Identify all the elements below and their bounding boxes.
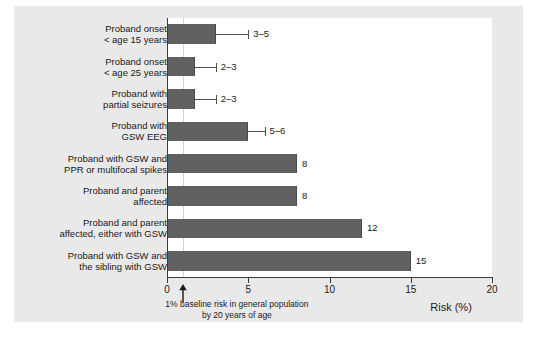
- bar[interactable]: [167, 24, 216, 44]
- annotation-line-1: 1% baseline risk in general population: [165, 299, 308, 310]
- category-label-line-2: GSW EEG: [14, 131, 167, 142]
- x-tick-label: 10: [324, 285, 335, 295]
- x-axis-title: Risk (%): [430, 302, 472, 313]
- bar-row: 5–6: [167, 122, 492, 142]
- category-label-line-1: Proband and parent: [14, 217, 167, 228]
- category-label-line-1: Proband with: [14, 88, 167, 99]
- category-label: Proband with GSW andthe sibling with GSW: [14, 250, 172, 272]
- category-label-line-2: affected, either with GSW: [14, 228, 167, 239]
- bar[interactable]: [167, 154, 297, 174]
- category-label-line-2: partial seizures: [14, 99, 167, 110]
- bar-row: 8: [167, 186, 492, 206]
- category-label-line-2: affected: [14, 196, 167, 207]
- error-bar-whisker: [195, 99, 216, 100]
- x-tick-mark: [167, 278, 168, 283]
- bar-value-label: 3–5: [253, 29, 269, 39]
- bar-value-label: 8: [302, 159, 307, 169]
- x-tick-mark: [330, 278, 331, 283]
- plot-area: 3–52–32–35–6881215: [167, 18, 492, 277]
- category-label-line-1: Proband with GSW and: [14, 153, 167, 164]
- error-bar-cap: [248, 30, 249, 39]
- bar[interactable]: [167, 186, 297, 206]
- category-label: Proband and parentaffected: [14, 185, 172, 207]
- category-label-line-2: < age 15 years: [14, 34, 167, 45]
- error-bar-whisker: [248, 131, 264, 132]
- category-label-line-2: the sibling with GSW: [14, 261, 167, 272]
- x-tick-label: 0: [164, 285, 170, 295]
- error-bar-cap: [265, 127, 266, 136]
- x-tick-label: 20: [486, 285, 497, 295]
- bar-value-label: 15: [416, 256, 427, 266]
- figure-panel: 3–52–32–35–6881215 Proband onset< age 15…: [14, 6, 523, 322]
- bar-value-label: 8: [302, 191, 307, 201]
- bar-row: 3–5: [167, 24, 492, 44]
- x-tick-mark: [492, 278, 493, 283]
- error-bar-whisker: [216, 34, 249, 35]
- bar[interactable]: [167, 122, 248, 142]
- x-tick-mark: [248, 278, 249, 283]
- annotation-line-2: by 20 years of age: [165, 310, 308, 321]
- bar-value-label: 12: [367, 224, 378, 234]
- x-tick-label: 15: [405, 285, 416, 295]
- x-tick-mark: [411, 278, 412, 283]
- bar-value-label: 2–3: [221, 62, 237, 72]
- category-label-line-1: Proband onset: [14, 56, 167, 67]
- error-bar-cap: [216, 95, 217, 104]
- category-label: Proband and parentaffected, either with …: [14, 217, 172, 239]
- category-label-line-2: < age 25 years: [14, 67, 167, 78]
- error-bar-cap: [216, 63, 217, 72]
- bar[interactable]: [167, 219, 362, 239]
- category-label: Proband onset< age 15 years: [14, 23, 172, 45]
- x-tick-label: 5: [245, 285, 251, 295]
- baseline-annotation: 1% baseline risk in general population b…: [165, 299, 308, 320]
- category-label-line-1: Proband onset: [14, 23, 167, 34]
- category-label-line-2: PPR or multifocal spikes: [14, 164, 167, 175]
- bar-value-label: 2–3: [221, 94, 237, 104]
- category-label: Proband withpartial seizures: [14, 88, 172, 110]
- bar-row: 2–3: [167, 89, 492, 109]
- category-label: Proband withGSW EEG: [14, 120, 172, 142]
- bar-row: 15: [167, 251, 492, 271]
- category-label-line-1: Proband and parent: [14, 185, 167, 196]
- bar-row: 8: [167, 154, 492, 174]
- bar[interactable]: [167, 251, 411, 271]
- category-label-line-1: Proband with: [14, 120, 167, 131]
- category-label-line-1: Proband with GSW and: [14, 250, 167, 261]
- error-bar-whisker: [195, 67, 216, 68]
- y-axis-line: [167, 18, 168, 278]
- bar-value-label: 5–6: [270, 127, 286, 137]
- category-label: Proband onset< age 25 years: [14, 56, 172, 78]
- bar-row: 2–3: [167, 57, 492, 77]
- category-label: Proband with GSW andPPR or multifocal sp…: [14, 153, 172, 175]
- bar-row: 12: [167, 219, 492, 239]
